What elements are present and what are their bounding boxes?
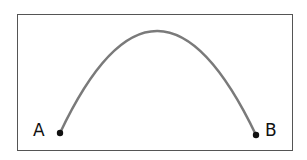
point-a-marker xyxy=(57,130,63,136)
trajectory-diagram xyxy=(0,0,307,160)
point-a-label: A xyxy=(33,122,45,139)
parabolic-arc xyxy=(60,31,256,135)
point-b-marker xyxy=(253,132,259,138)
point-b-label: B xyxy=(265,122,277,139)
